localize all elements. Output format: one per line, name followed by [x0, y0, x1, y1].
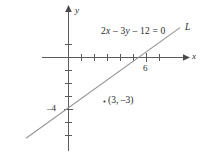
graph-canvas	[0, 0, 208, 159]
y-intercept-tick-label: –4	[47, 104, 56, 113]
equation-middle: – 3	[110, 26, 125, 36]
point-label-3-minus3: (3, –3)	[108, 96, 133, 106]
y-axis-arrowhead	[65, 5, 72, 12]
line-L	[26, 28, 180, 139]
line-equation-label: 2x – 3y – 12 = 0	[101, 27, 166, 37]
y-axis-label: y	[75, 6, 79, 15]
y-axis-group	[64, 5, 73, 151]
x-axis-group	[42, 53, 190, 62]
line-name-label: L	[185, 23, 190, 33]
x-intercept-tick-label: 6	[143, 64, 148, 73]
x-axis-label: x	[192, 52, 196, 61]
point-marker-3-minus3	[103, 100, 105, 102]
equation-tail: – 12 = 0	[130, 26, 166, 36]
x-axis-arrowhead	[183, 54, 190, 61]
line-graph-figure: y x 2x – 3y – 12 = 0 L 6 –4 (3, –3)	[0, 0, 208, 159]
